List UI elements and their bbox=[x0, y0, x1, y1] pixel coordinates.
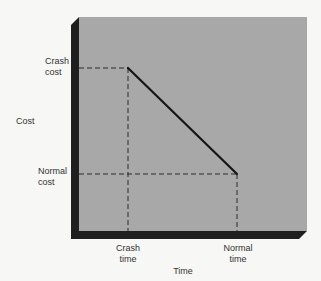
crash-time-label: Crash time bbox=[116, 243, 140, 265]
normal-time-label-line2: time bbox=[223, 254, 252, 265]
x-axis-title: Time bbox=[173, 266, 193, 277]
x-axis-floor bbox=[71, 231, 307, 239]
cost-time-diagram: Crash cost Cost Normal cost Crash time N… bbox=[0, 0, 321, 281]
crash-cost-label: Crash cost bbox=[45, 56, 69, 78]
normal-cost-label-line2: cost bbox=[38, 177, 67, 188]
normal-time-label-line1: Normal bbox=[223, 243, 252, 254]
normal-cost-label: Normal cost bbox=[38, 166, 67, 188]
crash-cost-label-line2: cost bbox=[45, 67, 69, 78]
normal-cost-label-line1: Normal bbox=[38, 166, 67, 177]
normal-time-label: Normal time bbox=[223, 243, 252, 265]
crash-time-label-line2: time bbox=[116, 254, 140, 265]
y-axis-wall bbox=[71, 17, 79, 238]
crash-time-label-line1: Crash bbox=[116, 243, 140, 254]
y-axis-title: Cost bbox=[16, 116, 35, 127]
plot-area bbox=[79, 17, 307, 231]
crash-cost-label-line1: Crash bbox=[45, 56, 69, 67]
diagram-canvas bbox=[0, 0, 321, 281]
